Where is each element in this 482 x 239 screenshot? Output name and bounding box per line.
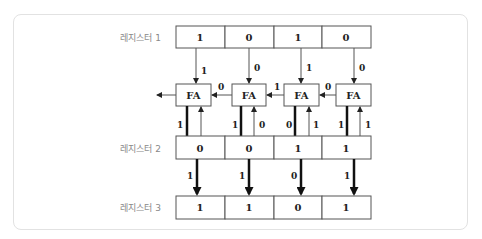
carry-1: 1 [274, 82, 280, 92]
fa0-out-bit: 1 [177, 120, 183, 130]
reg1-to-fa-bit-0: 1 [201, 66, 207, 76]
reg1-bit-0: 1 [197, 32, 204, 43]
reg2-to-reg3-bit-3: 1 [344, 171, 350, 181]
fa-1-label: FA [242, 90, 257, 101]
reg1-bit-1: 0 [246, 32, 253, 43]
register-3-label: 레지스터 3 [120, 203, 161, 213]
fa2-out-bit: 0 [286, 120, 292, 130]
fa-2-label: FA [294, 90, 309, 101]
reg2-bit-1: 0 [246, 143, 253, 154]
reg3-bit-1: 1 [246, 202, 253, 213]
fa3-out-bit: 1 [338, 120, 344, 130]
fa-3-label: FA [346, 90, 361, 101]
reg3-bit-3: 1 [343, 202, 350, 213]
reg2-in-bit-2: 1 [313, 120, 319, 130]
reg1-to-fa-bit-3: 0 [359, 63, 365, 73]
reg2-to-reg3-bit-2: 0 [291, 171, 297, 181]
reg2-to-reg3-bit-0: 1 [187, 171, 193, 181]
reg1-to-fa-bit-1: 0 [254, 63, 260, 73]
reg1-to-fa-bit-2: 1 [306, 63, 312, 73]
carry-2: 0 [325, 82, 331, 92]
carry-0: 0 [218, 82, 224, 92]
register-2-label: 레지스터 2 [120, 144, 161, 154]
reg1-bit-2: 1 [295, 32, 302, 43]
reg2-bit-0: 0 [197, 143, 204, 154]
register-1-label: 레지스터 1 [120, 33, 161, 43]
reg2-to-reg3-bit-1: 1 [239, 171, 245, 181]
reg3-bit-0: 1 [197, 202, 204, 213]
reg3-bit-2: 0 [295, 202, 302, 213]
reg2-bit-2: 1 [295, 143, 302, 154]
reg1-bit-3: 0 [343, 32, 350, 43]
reg2-in-bit-3: 1 [365, 120, 371, 130]
reg2-bit-3: 1 [343, 143, 350, 154]
fa1-out-bit: 1 [232, 120, 238, 130]
adder-diagram: 레지스터 1 레지스터 2 레지스터 3 1 0 1 0 1 0 1 0 FA … [0, 0, 482, 239]
fa-0-label: FA [186, 90, 201, 101]
reg2-in-bit-1: 0 [259, 120, 265, 130]
